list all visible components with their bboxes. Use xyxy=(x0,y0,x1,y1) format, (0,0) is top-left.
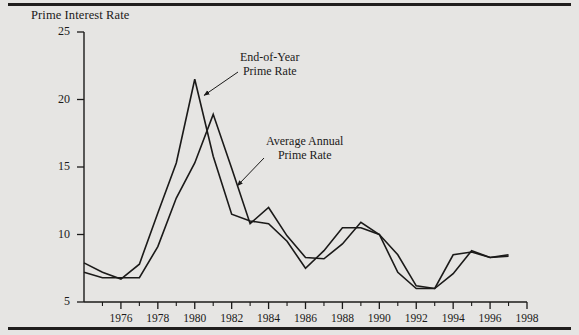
x-axis-tick-label: 1998 xyxy=(507,312,547,324)
y-axis-tick-label: 5 xyxy=(46,294,70,309)
x-axis-tick-label: 1996 xyxy=(470,312,510,324)
x-axis-tick-label: 1990 xyxy=(359,312,399,324)
annotation-leader-line-1 xyxy=(204,72,238,95)
data-series-line-1 xyxy=(84,79,509,288)
y-axis-tick-label: 15 xyxy=(46,159,70,174)
x-axis-tick-label: 1976 xyxy=(101,312,141,324)
y-axis-tick-label: 20 xyxy=(46,92,70,107)
series-annotation-label-2: Average AnnualPrime Rate xyxy=(266,134,343,162)
x-axis-tick-label: 1988 xyxy=(322,312,362,324)
y-axis-tick-label: 10 xyxy=(46,227,70,242)
y-axis-tick-label: 25 xyxy=(46,24,70,39)
x-axis-tick-label: 1986 xyxy=(286,312,326,324)
annotation-text-line: End-of-Year xyxy=(240,50,299,64)
series-annotation-label-1: End-of-YearPrime Rate xyxy=(240,50,299,78)
x-axis-tick-label: 1984 xyxy=(249,312,289,324)
x-axis-tick-label: 1994 xyxy=(433,312,473,324)
annotation-text-line: Prime Rate xyxy=(240,64,299,78)
x-axis-tick-label: 1980 xyxy=(175,312,215,324)
x-axis-tick-label: 1978 xyxy=(138,312,178,324)
x-axis-tick-label: 1982 xyxy=(212,312,252,324)
annotation-text-line: Prime Rate xyxy=(266,148,343,162)
annotation-leader-line-2 xyxy=(237,158,264,186)
figure-canvas: Prime Interest Rate 51015202519761978198… xyxy=(0,0,579,335)
annotation-text-line: Average Annual xyxy=(266,134,343,148)
x-axis-tick-label: 1992 xyxy=(396,312,436,324)
